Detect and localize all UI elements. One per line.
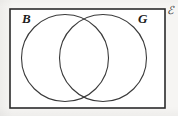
venn-diagram-figure: B G ℰ [0,0,178,116]
universal-set-label: ℰ [167,4,175,16]
set-label-b: B [21,11,31,26]
set-label-g: G [138,11,148,26]
